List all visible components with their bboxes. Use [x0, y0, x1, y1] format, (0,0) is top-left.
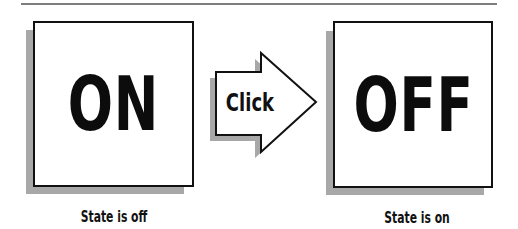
- right-caption: State is on: [374, 209, 460, 227]
- right-state-button[interactable]: OFF: [333, 21, 493, 188]
- click-label: Click: [226, 88, 266, 117]
- right-state-label: OFF: [353, 68, 473, 142]
